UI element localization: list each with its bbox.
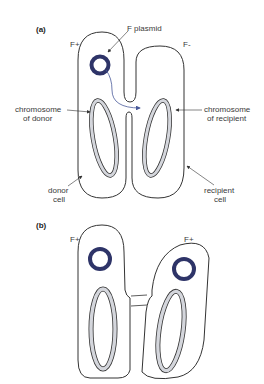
left-plasmid-icon [90, 249, 110, 269]
right-cell-type-label: F+ [184, 235, 194, 244]
recipient-cell-label-1: recipient [204, 186, 235, 195]
recipient-type-label: F- [183, 40, 191, 49]
right-chromosome-fill [154, 290, 189, 373]
donor-type-label: F+ [70, 40, 80, 49]
transfer-arrow-icon [106, 70, 140, 108]
recipient-chromosome-label-1: chromosome [204, 105, 251, 114]
donor-cell-label-1: donor [48, 186, 69, 195]
f-plasmid-icon [92, 57, 109, 74]
left-chromosome-fill [91, 289, 115, 369]
recipient-chromosome-fill [140, 99, 175, 178]
right-plasmid-icon [174, 259, 194, 279]
donor-chromosome-label-1: chromosome [15, 105, 62, 114]
donor-cell-label-2: cell [53, 195, 65, 204]
plasmid-label: F plasmid [127, 24, 162, 33]
recipient-cell-label-2: cell [214, 195, 226, 204]
panel-a-label: (a) [36, 25, 46, 34]
donor-chromosome-fill [87, 99, 122, 178]
panel-b-label: (b) [36, 221, 47, 230]
conjugation-diagram: (a) F+ F- F plasmid chromosome of donor … [0, 0, 264, 384]
recipient-chromosome-label-2: of recipient [207, 114, 247, 123]
donor-chromosome-label-2: of donor [23, 114, 53, 123]
